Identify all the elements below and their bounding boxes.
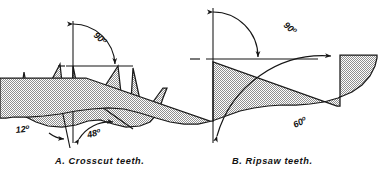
ripsaw-caption: B. Ripsaw teeth. bbox=[232, 156, 313, 166]
crosscut-caption: A. Crosscut teeth. bbox=[54, 156, 144, 166]
ripsaw-90-arc bbox=[213, 12, 258, 57]
crosscut-12-arc bbox=[49, 133, 64, 139]
saw-teeth-figure: 90o 12o 48o A. Crosscut teeth. bbox=[0, 0, 378, 174]
crosscut-90-label: 90o bbox=[92, 29, 110, 47]
panel-ripsaw: 90o 60o B. Ripsaw teeth. bbox=[0, 8, 377, 166]
figure-canvas: 90o 12o 48o A. Crosscut teeth. bbox=[0, 0, 378, 174]
crosscut-12-label: 12o bbox=[15, 123, 30, 135]
ripsaw-90-label: 90o bbox=[282, 19, 300, 36]
crosscut-90-arc bbox=[73, 24, 115, 64]
crosscut-48-label: 48o bbox=[85, 126, 102, 140]
ripsaw-60-label: 60o bbox=[291, 114, 308, 130]
ripsaw-blade-body bbox=[0, 55, 377, 124]
